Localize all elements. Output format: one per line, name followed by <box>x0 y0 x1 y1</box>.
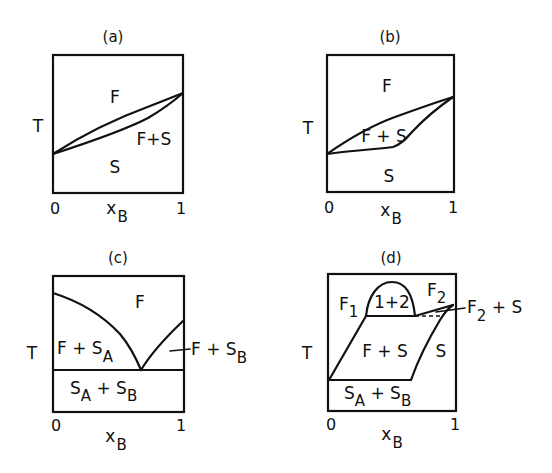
panel-d-x-tick-1: 1 <box>450 415 460 434</box>
panel-a-region-f: F <box>110 87 120 107</box>
panel-b-x-tick-1: 1 <box>448 198 458 217</box>
panel-a-y-axis-label: T <box>32 116 44 136</box>
panel-b-x-tick-0: 0 <box>324 198 334 217</box>
panel-b-region-f: F <box>382 76 392 96</box>
panel-b-region-f-plus-s: F + S <box>361 126 407 146</box>
panel-a-title: (a) <box>103 28 124 46</box>
panel-c-region-f-plus-sa: F + SA <box>57 338 114 366</box>
panel-d-x-axis-label: xB <box>381 424 402 452</box>
panel-d-region-1-plus-2: 1+2 <box>374 292 410 312</box>
panel-c: (c) F F + SA F + SB SA + SB T 0 1 xB <box>26 249 247 454</box>
panel-b-y-axis-label: T <box>302 118 314 138</box>
panel-d-y-axis-label: T <box>301 343 313 363</box>
panel-d-region-f-plus-s: F + S <box>362 341 408 361</box>
panel-d-region-f2: F2 <box>427 280 446 307</box>
panel-a-x-axis-label: xB <box>106 198 127 226</box>
panel-c-region-f-plus-sb: F + SB <box>191 339 247 367</box>
panel-b: (b) F F + S S T 0 1 xB <box>302 28 458 228</box>
panel-c-x-tick-0: 0 <box>51 416 61 435</box>
panel-b-region-s: S <box>384 166 395 186</box>
panel-d-region-f2-plus-s: F2 + S <box>467 297 522 325</box>
panel-d-region-f1: F1 <box>339 294 358 321</box>
panel-b-title: (b) <box>379 28 400 46</box>
panel-b-x-axis-label: xB <box>380 200 401 228</box>
panel-c-region-sa-plus-sb: SA + SB <box>70 378 137 405</box>
panel-c-y-axis-label: T <box>26 343 38 363</box>
panel-c-liquidus-b-curve <box>141 321 183 370</box>
phase-diagrams-figure: (a) F F+S S T 0 1 xB (b) F F + S S T 0 1… <box>0 0 552 473</box>
panel-c-title: (c) <box>108 249 128 267</box>
panel-c-liquidus-a-curve <box>53 293 141 370</box>
panel-a-region-f-plus-s: F+S <box>137 129 172 149</box>
panel-a-x-tick-0: 0 <box>50 199 60 218</box>
panel-a-x-tick-1: 1 <box>176 199 186 218</box>
panel-a-region-s: S <box>110 157 121 177</box>
panel-d-x-tick-0: 0 <box>326 415 336 434</box>
panel-c-x-axis-label: xB <box>105 426 126 454</box>
panel-c-leader-line <box>170 349 190 351</box>
panel-d-region-s: S <box>436 341 447 361</box>
panel-d-region-sa-plus-sb: SA + SB <box>344 383 411 410</box>
panel-a: (a) F F+S S T 0 1 xB <box>32 28 186 226</box>
panel-d-liquidus-left <box>329 316 366 380</box>
panel-c-region-f: F <box>135 292 145 312</box>
panel-c-x-tick-1: 1 <box>176 416 186 435</box>
panel-d-title: (d) <box>380 249 401 267</box>
panel-d: (d) F1 1+2 F2 F2 + S F + S S SA + SB T 0… <box>301 249 522 452</box>
